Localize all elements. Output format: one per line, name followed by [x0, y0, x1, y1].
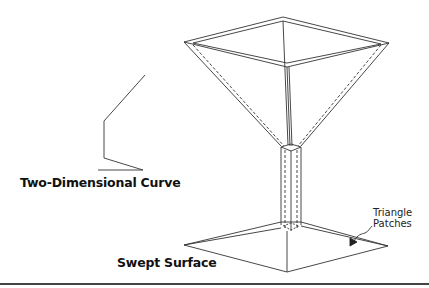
goblet-stem	[281, 144, 301, 231]
arrowhead-icon	[350, 238, 357, 246]
swept-surface-label: Swept Surface	[117, 255, 217, 270]
goblet-rim	[184, 17, 389, 67]
two-dimensional-curve-label: Two-Dimensional Curve	[20, 175, 181, 190]
bottom-rule-divider	[0, 283, 429, 285]
two-dimensional-curve	[98, 75, 145, 170]
swept-surface-diagram	[0, 0, 429, 288]
goblet-cup	[184, 21, 389, 146]
triangle-patches-label-line1: Triangle	[373, 207, 412, 218]
triangle-patches-label: Triangle Patches	[373, 207, 412, 229]
triangle-patches-label-line2: Patches	[373, 218, 412, 229]
